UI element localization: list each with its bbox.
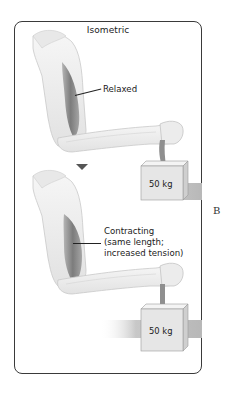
contracting-leader-line xyxy=(73,243,101,244)
weight-box-top: 50 kg xyxy=(141,161,188,200)
isometric-illustration: 50 kg 50 kg xyxy=(0,0,232,400)
relaxed-label: Relaxed xyxy=(103,84,137,95)
weight-box-bottom: 50 kg xyxy=(141,304,188,351)
weight-label-top: 50 kg xyxy=(149,179,173,189)
contracting-label: Contracting (same length; increased tens… xyxy=(104,226,183,259)
weight-label-bottom: 50 kg xyxy=(149,326,173,336)
down-arrow-icon xyxy=(76,164,88,170)
figure-part-letter: B xyxy=(213,205,220,216)
